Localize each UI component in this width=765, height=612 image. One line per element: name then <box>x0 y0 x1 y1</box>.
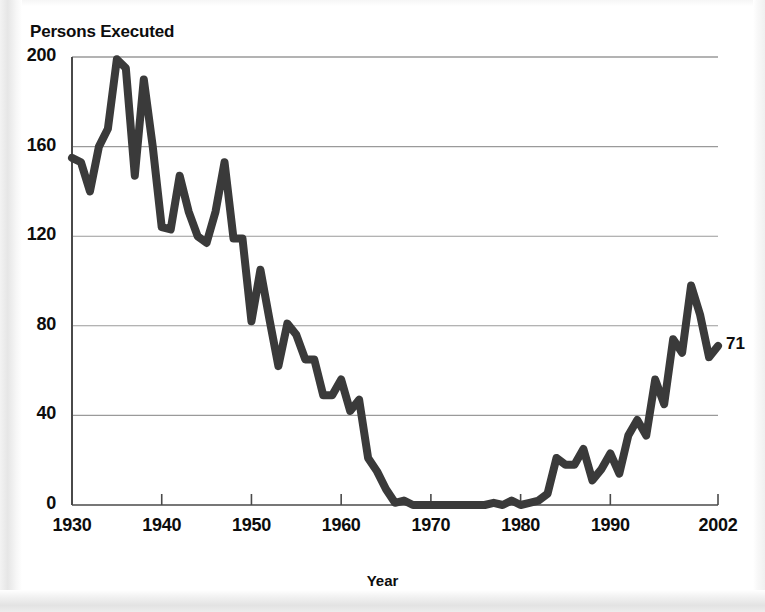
y-axis-tick-label: 0 <box>8 493 56 514</box>
y-axis-tick-label: 120 <box>8 224 56 245</box>
x-axis-title: Year <box>0 572 765 589</box>
x-axis-tick-label: 1940 <box>127 515 197 536</box>
y-axis-tick-label: 40 <box>8 403 56 424</box>
line-chart-plot <box>0 0 765 612</box>
data-series-line <box>72 59 718 505</box>
x-axis-tick-label: 1990 <box>575 515 645 536</box>
x-axis-tick-label: 1970 <box>396 515 466 536</box>
y-axis-tick-label: 80 <box>8 314 56 335</box>
y-axis-tick-label: 200 <box>8 45 56 66</box>
chart-page: Persons Executed 04080120160200 19301940… <box>0 0 765 612</box>
x-axis-tick-label: 1960 <box>306 515 376 536</box>
x-axis-tick-label: 1950 <box>216 515 286 536</box>
x-axis-tick-label: 1980 <box>486 515 556 536</box>
y-axis-tick-label: 160 <box>8 135 56 156</box>
x-axis-tick-label: 2002 <box>683 515 753 536</box>
x-axis-tick-label: 1930 <box>37 515 107 536</box>
endpoint-value-annotation: 71 <box>726 334 745 354</box>
gridlines <box>72 57 718 415</box>
